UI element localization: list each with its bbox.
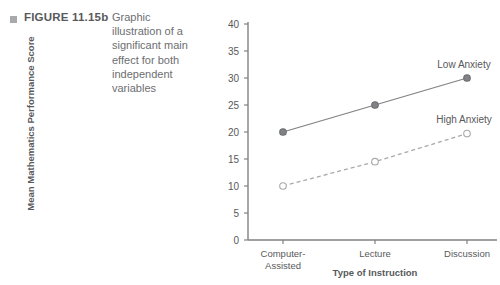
y-axis-tick-label: 0 — [217, 235, 239, 246]
series-label-high-anxiety: High Anxiety — [436, 114, 492, 125]
data-point-low-anxiety[interactable] — [464, 75, 471, 82]
x-axis-tick-label: Lecture — [330, 248, 420, 260]
data-point-low-anxiety[interactable] — [280, 129, 287, 136]
data-point-high-anxiety[interactable] — [280, 183, 287, 190]
y-axis-tick-label: 15 — [217, 154, 239, 165]
chart-svg — [0, 0, 500, 285]
y-axis-tick-label: 5 — [217, 208, 239, 219]
y-axis-title: Mean Mathematics Performance Score — [25, 9, 36, 239]
x-axis-tick-label: Discussion — [422, 248, 500, 260]
data-point-high-anxiety[interactable] — [464, 130, 471, 137]
x-axis-title: Type of Instruction — [333, 267, 418, 278]
data-point-high-anxiety[interactable] — [372, 158, 379, 165]
y-axis-tick-label: 10 — [217, 181, 239, 192]
chart-plot: Mean Mathematics Performance Score 05101… — [0, 0, 500, 285]
y-axis-tick-label: 35 — [217, 46, 239, 57]
x-axis-tick-label: Computer-Assisted — [238, 248, 328, 271]
data-point-low-anxiety[interactable] — [372, 102, 379, 109]
y-axis-tick-label: 25 — [217, 100, 239, 111]
y-axis-tick-label: 40 — [217, 19, 239, 30]
figure-panel: FIGURE 11.15b Graphic illustration of a … — [0, 0, 500, 285]
series-label-low-anxiety: Low Anxiety — [437, 59, 490, 70]
y-axis-tick-label: 20 — [217, 127, 239, 138]
y-axis-tick-label: 30 — [217, 73, 239, 84]
